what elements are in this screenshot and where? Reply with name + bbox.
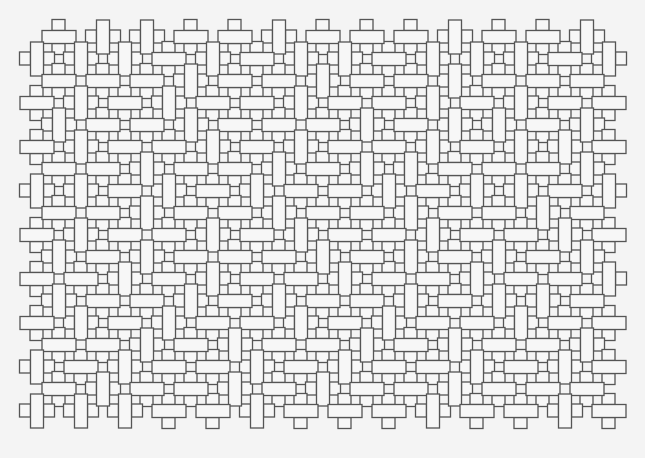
horizontal-bar (108, 141, 142, 154)
vertical-bar (295, 218, 308, 252)
horizontal-bar (372, 53, 406, 66)
cap-square (284, 140, 295, 153)
vertical-bar (207, 218, 220, 252)
cap-square (184, 196, 197, 207)
vertical-bar (295, 42, 308, 76)
vertical-bar (207, 42, 220, 76)
horizontal-bar (306, 295, 340, 308)
cap-square (462, 338, 473, 351)
horizontal-bar (592, 97, 626, 110)
horizontal-bar (526, 339, 560, 352)
vertical-bar (493, 108, 506, 142)
vertical-bar (427, 130, 440, 164)
cap-square (470, 130, 483, 141)
horizontal-bar (196, 361, 230, 374)
cap-square (52, 372, 65, 383)
horizontal-bar (548, 53, 582, 66)
cap-square (470, 418, 483, 429)
cap-square (64, 404, 75, 417)
vertical-bar (559, 350, 572, 384)
horizontal-bar (460, 317, 494, 330)
horizontal-bar (394, 75, 428, 88)
horizontal-bar (372, 273, 406, 286)
horizontal-bar (460, 141, 494, 154)
vertical-bar (537, 196, 550, 230)
horizontal-bar (196, 97, 230, 110)
horizontal-bar (570, 295, 604, 308)
horizontal-bar (438, 163, 472, 176)
cap-square (492, 196, 505, 207)
cap-square (30, 130, 43, 141)
horizontal-bar (196, 185, 230, 198)
horizontal-bar (526, 383, 560, 396)
cap-square (338, 418, 351, 429)
horizontal-bar (174, 31, 208, 44)
cap-square (536, 152, 549, 163)
horizontal-bar (504, 229, 538, 242)
vertical-bar (559, 218, 572, 252)
cap-square (20, 360, 31, 373)
cap-square (294, 418, 307, 429)
horizontal-bar (284, 185, 318, 198)
horizontal-bar (526, 31, 560, 44)
cap-square (594, 162, 605, 175)
cap-square (140, 64, 153, 75)
cap-square (514, 418, 527, 429)
vertical-bar (603, 42, 616, 76)
horizontal-bar (394, 339, 428, 352)
horizontal-bar (130, 75, 164, 88)
cap-square (30, 218, 43, 229)
horizontal-bar (482, 207, 516, 220)
horizontal-bar (328, 185, 362, 198)
cap-square (162, 42, 175, 53)
horizontal-bar (262, 339, 296, 352)
horizontal-bar (350, 295, 384, 308)
horizontal-bar (460, 97, 494, 110)
cap-square (96, 64, 109, 75)
vertical-bar (515, 174, 528, 208)
horizontal-bar (416, 273, 450, 286)
horizontal-bar (592, 361, 626, 374)
cap-square (64, 96, 75, 109)
cap-square (66, 294, 77, 307)
horizontal-bar (460, 229, 494, 242)
horizontal-bar (152, 229, 186, 242)
cap-square (130, 30, 141, 43)
vertical-bar (31, 394, 44, 428)
vertical-bar (493, 240, 506, 274)
vertical-bar (163, 306, 176, 340)
cap-square (30, 330, 43, 341)
cap-square (20, 52, 31, 65)
vertical-bar (185, 108, 198, 142)
cap-square (196, 52, 207, 65)
cap-square (228, 152, 241, 163)
vertical-bar (273, 284, 286, 318)
vertical-bar (141, 20, 154, 54)
cap-square (536, 328, 549, 339)
cap-square (470, 86, 483, 97)
cap-square (570, 338, 581, 351)
horizontal-bar (174, 339, 208, 352)
cap-square (438, 382, 449, 395)
cap-square (550, 206, 561, 219)
horizontal-bar (460, 405, 494, 418)
cap-square (492, 20, 505, 31)
vertical-bar (471, 174, 484, 208)
cap-square (206, 306, 219, 317)
horizontal-bar (548, 273, 582, 286)
vertical-bar (515, 42, 528, 76)
horizontal-bar (108, 185, 142, 198)
horizontal-bar (482, 339, 516, 352)
vertical-bar (493, 284, 506, 318)
cap-square (602, 418, 615, 429)
cap-square (30, 154, 43, 165)
vertical-bar (75, 306, 88, 340)
cap-square (580, 372, 593, 383)
vertical-bar (405, 196, 418, 230)
cap-square (152, 316, 163, 329)
horizontal-bar (218, 207, 252, 220)
vertical-bar (383, 306, 396, 340)
horizontal-bar (548, 185, 582, 198)
cap-square (382, 130, 395, 141)
horizontal-bar (328, 317, 362, 330)
